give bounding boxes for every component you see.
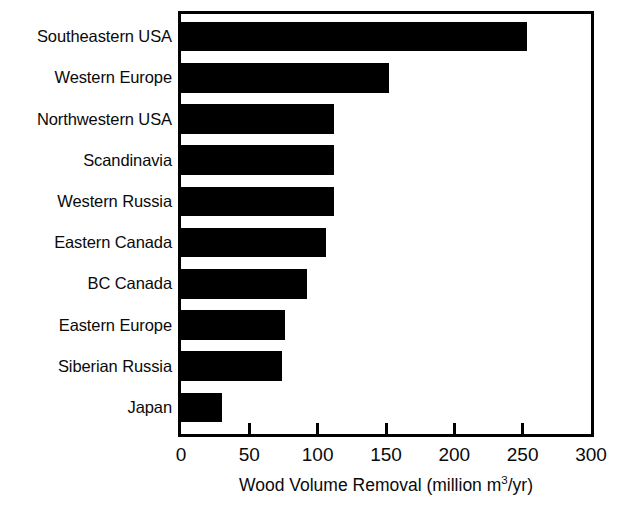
x-tick-label-0: 0: [176, 444, 187, 466]
x-tick-label-200: 200: [438, 444, 470, 466]
x-tick-label-100: 100: [302, 444, 334, 466]
category-label-bc-canada: BC Canada: [0, 275, 172, 292]
x-tick-label-150: 150: [370, 444, 402, 466]
x-tick-label-300: 300: [575, 444, 607, 466]
bar-bc-canada: [181, 269, 307, 298]
x-tick-label-250: 250: [507, 444, 539, 466]
x-axis-title: Wood Volume Removal (million m3/yr): [178, 474, 594, 496]
x-axis-tick-labels: 050100150200250300: [0, 444, 621, 470]
x-tick-label-50: 50: [239, 444, 260, 466]
bar-chart: Southeastern USAWestern EuropeNorthweste…: [0, 0, 621, 513]
bar-western-russia: [181, 187, 334, 216]
category-label-siberian-russia: Siberian Russia: [0, 358, 172, 375]
x-axis-title-main: Wood Volume Removal (million m: [239, 475, 501, 495]
category-label-japan: Japan: [0, 399, 172, 416]
bars-layer: [178, 11, 594, 437]
bar-eastern-europe: [181, 310, 285, 339]
category-label-western-russia: Western Russia: [0, 193, 172, 210]
bar-western-europe: [181, 63, 389, 92]
category-label-eastern-europe: Eastern Europe: [0, 317, 172, 334]
category-label-southeastern-usa: Southeastern USA: [0, 28, 172, 45]
bar-southeastern-usa: [181, 22, 527, 51]
bar-scandinavia: [181, 145, 334, 174]
category-label-northwestern-usa: Northwestern USA: [0, 111, 172, 128]
category-label-western-europe: Western Europe: [0, 69, 172, 86]
category-axis-labels: Southeastern USAWestern EuropeNorthweste…: [0, 11, 172, 437]
bar-siberian-russia: [181, 351, 282, 380]
x-axis-title-tail: /yr): [508, 475, 533, 495]
category-label-eastern-canada: Eastern Canada: [0, 234, 172, 251]
bar-japan: [181, 393, 222, 422]
bar-eastern-canada: [181, 228, 326, 257]
bar-northwestern-usa: [181, 104, 334, 133]
category-label-scandinavia: Scandinavia: [0, 152, 172, 169]
